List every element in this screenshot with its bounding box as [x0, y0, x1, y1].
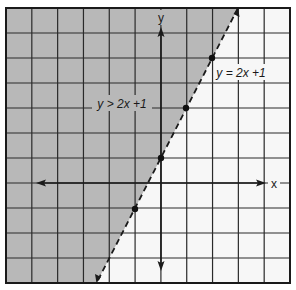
point-neg1-neg1 [132, 206, 138, 212]
equation-label: y = 2x +1 [215, 66, 265, 80]
inequality-graph: x y y > 2x +1 y = 2x +1 [0, 0, 296, 290]
point-2-5 [209, 55, 215, 61]
y-axis-label: y [158, 11, 164, 25]
x-axis-label: x [271, 177, 277, 191]
point-0-1 [158, 155, 164, 161]
point-1-3 [183, 105, 189, 111]
inequality-label: y > 2x +1 [96, 97, 146, 111]
